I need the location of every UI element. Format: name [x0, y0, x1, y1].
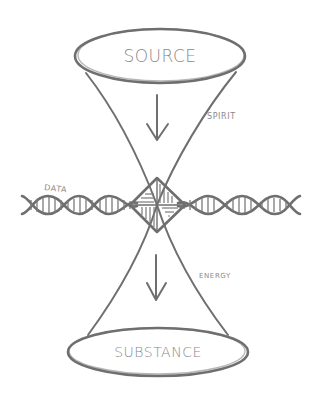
down-arrow-icon: [147, 255, 166, 300]
source-node: SOURCE: [75, 29, 245, 83]
energy-label: ENERGY: [199, 272, 231, 280]
source-label: SOURCE: [123, 46, 196, 66]
dna-helix-right-icon: [178, 196, 300, 214]
spirit-label: SPIRIT: [207, 112, 236, 121]
substance-node: SUBSTANCE: [68, 328, 248, 376]
diagram-canvas: SOURCE SUBSTANCE: [0, 0, 314, 397]
data-label: DATA: [44, 183, 68, 194]
top-cone: [86, 72, 236, 205]
dna-helix-left-icon: [22, 196, 137, 214]
down-arrow-icon: [147, 95, 168, 140]
bottom-cone: [88, 205, 228, 335]
center-diamond-icon: [130, 178, 185, 232]
substance-label: SUBSTANCE: [114, 344, 202, 360]
